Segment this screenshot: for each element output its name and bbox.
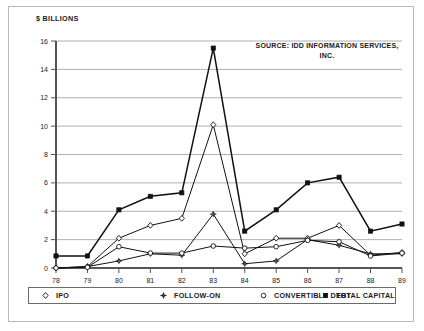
data-point-marker	[242, 246, 247, 251]
x-tick-label: 89	[398, 277, 406, 284]
x-tick-label: 86	[304, 277, 312, 284]
data-point-marker	[261, 293, 266, 298]
data-point-marker	[368, 229, 372, 233]
legend-item-total-capital[interactable]: TOTAL CAPITAL	[319, 291, 395, 300]
filled-square-marker	[319, 291, 332, 300]
y-tick-label: 16	[40, 38, 48, 45]
data-point-marker	[180, 251, 185, 256]
y-tick-label: 14	[40, 66, 48, 73]
data-point-marker	[337, 239, 342, 244]
legend-item-ipo[interactable]: IPO	[39, 291, 69, 300]
data-point-marker	[117, 244, 122, 249]
series-line	[56, 240, 402, 268]
chart-figure: $ BILLIONS SOURCE: IDD INFORMATION SERVI…	[0, 0, 424, 331]
data-point-marker	[116, 258, 122, 264]
data-point-marker	[306, 181, 310, 185]
data-point-marker	[211, 46, 215, 50]
chart-legend: IPOFOLLOW-ONCONVERTIBLE DEBTTOTAL CAPITA…	[28, 287, 396, 304]
data-point-marker	[400, 222, 404, 226]
x-tick-label: 88	[367, 277, 375, 284]
data-point-marker	[323, 293, 327, 297]
data-point-marker	[400, 251, 405, 256]
data-point-marker	[117, 208, 121, 212]
data-point-marker	[368, 254, 373, 259]
y-tick-label: 10	[40, 123, 48, 130]
open-star-marker	[157, 291, 170, 300]
plot-area: 0246810121416787980818283848586878889	[0, 0, 424, 331]
data-point-marker	[211, 122, 216, 128]
legend-item-label: IPO	[56, 291, 69, 300]
x-tick-label: 83	[209, 277, 217, 284]
data-point-marker	[180, 191, 184, 195]
series-line	[56, 214, 402, 268]
x-tick-label: 79	[84, 277, 92, 284]
legend-item-follow-on[interactable]: FOLLOW-ON	[157, 291, 220, 300]
series-line	[56, 48, 402, 256]
data-point-marker	[211, 244, 216, 249]
data-point-marker	[210, 211, 216, 217]
series-total-capital	[54, 46, 404, 258]
y-tick-label: 2	[44, 236, 48, 243]
data-point-marker	[242, 251, 247, 257]
x-tick-label: 87	[335, 277, 343, 284]
data-point-marker	[274, 208, 278, 212]
data-point-marker	[274, 235, 279, 241]
x-tick-label: 78	[52, 277, 60, 284]
y-tick-label: 6	[44, 179, 48, 186]
x-tick-label: 80	[115, 277, 123, 284]
data-point-marker	[337, 175, 341, 179]
data-point-marker	[85, 254, 89, 258]
data-point-marker	[43, 293, 48, 299]
x-tick-label: 85	[272, 277, 280, 284]
data-point-marker	[160, 293, 166, 299]
data-point-marker	[54, 266, 59, 271]
x-tick-label: 84	[241, 277, 249, 284]
legend-item-label: TOTAL CAPITAL	[336, 291, 395, 300]
grid-lines: 0246810121416	[40, 38, 402, 272]
legend-item-label: FOLLOW-ON	[174, 291, 220, 300]
data-point-marker	[274, 244, 279, 249]
x-tick-label: 81	[146, 277, 154, 284]
data-point-marker	[148, 194, 152, 198]
x-axis-ticks: 787980818283848586878889	[52, 268, 406, 284]
data-point-marker	[148, 223, 153, 229]
data-point-marker	[179, 215, 184, 221]
data-point-marker	[242, 261, 248, 267]
data-point-marker	[54, 254, 58, 258]
series-convertible-debt	[54, 238, 405, 270]
data-point-marker	[305, 238, 310, 243]
series-follow-on	[53, 211, 405, 271]
x-tick-label: 82	[178, 277, 186, 284]
open-circle-marker	[257, 291, 270, 300]
y-tick-label: 4	[44, 208, 48, 215]
y-tick-label: 0	[44, 265, 48, 272]
data-point-marker	[148, 251, 153, 256]
open-diamond-marker	[39, 291, 52, 300]
data-point-marker	[85, 265, 90, 270]
y-tick-label: 8	[44, 151, 48, 158]
y-tick-label: 12	[40, 94, 48, 101]
data-point-marker	[243, 229, 247, 233]
